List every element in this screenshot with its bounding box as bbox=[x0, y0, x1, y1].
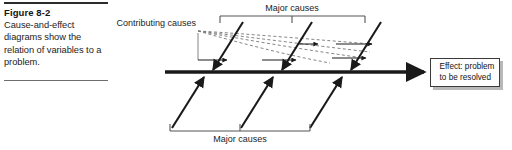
lower-bone-3 bbox=[310, 77, 342, 128]
lower-bones bbox=[172, 77, 342, 128]
label-major-causes-bottom: Major causes bbox=[213, 134, 267, 144]
figure-page: Figure 8-2 Cause-and-effect diagrams sho… bbox=[0, 0, 512, 150]
upper-bone-2 bbox=[282, 22, 312, 70]
effect-box-text: Effect: problem to be resolved bbox=[436, 62, 495, 83]
upper-bone-3 bbox=[351, 22, 381, 70]
lower-bone-2 bbox=[241, 77, 273, 128]
bracket-major-causes-bottom bbox=[170, 124, 310, 131]
lower-bone-1 bbox=[172, 77, 204, 128]
upper-bones bbox=[213, 22, 381, 70]
label-contributing-causes: Contributing causes bbox=[116, 18, 196, 28]
effect-box: Effect: problem to be resolved bbox=[430, 58, 500, 87]
upper-bone-1 bbox=[213, 22, 243, 70]
label-major-causes-top: Major causes bbox=[265, 3, 319, 13]
bracket-major-causes-top bbox=[220, 16, 365, 23]
